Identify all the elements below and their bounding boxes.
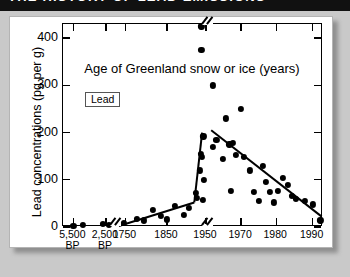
y-tick-label: 100 (37, 172, 58, 186)
x-axis-tick (125, 24, 126, 31)
x-axis-tick (73, 218, 74, 225)
y-axis-tick (63, 37, 70, 38)
x-tick-label: 1850 (154, 229, 177, 240)
title-text: THE HISTORY OF LEAD EMISSIONS (8, 0, 266, 4)
y-tick-label: 400 (37, 30, 58, 44)
x-axis-tick (240, 24, 241, 31)
axis-break-mark (202, 224, 213, 226)
axis-break-mark (202, 23, 213, 25)
x-tick-label: 1980 (264, 229, 287, 240)
y-tick-label: 200 (37, 125, 58, 139)
x-axis-tick (105, 24, 106, 31)
x-axis-tick (105, 218, 106, 225)
y-tick-label: 0 (51, 219, 58, 233)
x-tick-label: 1750 (113, 229, 136, 240)
y-axis-tick (314, 37, 321, 38)
title-banner: THE HISTORY OF LEAD EMISSIONS (0, 0, 350, 11)
x-tick-label: 5,500BP (59, 229, 85, 250)
figure-panel: Lead concentrations (pg per g) 010020030… (9, 16, 333, 248)
x-axis-tick (166, 218, 167, 225)
x-axis-tick (166, 24, 167, 31)
axis-break-mark (110, 224, 121, 226)
y-axis-tick (63, 132, 70, 133)
x-axis-title: Age of Greenland snow or ice (years) (62, 61, 322, 76)
x-tick-label: 1990 (300, 229, 323, 240)
y-axis-labels: 0100200300400 (10, 23, 58, 226)
x-tick-label: 1950 (193, 229, 216, 240)
legend-label: Lead (91, 93, 114, 105)
y-axis-tick (63, 85, 70, 86)
y-tick-label: 300 (37, 77, 58, 91)
x-axis-tick (73, 24, 74, 31)
x-tick-label: 1970 (228, 229, 251, 240)
x-axis-labels: 5,500BP2,500BP175018501950197019801990 (62, 229, 322, 255)
x-axis-tick (312, 24, 313, 31)
x-axis-tick (276, 24, 277, 31)
y-axis-tick (314, 179, 321, 180)
y-axis-tick (63, 179, 70, 180)
x-axis-tick (240, 218, 241, 225)
x-axis-tick (205, 24, 206, 31)
legend: Lead (85, 92, 120, 107)
x-axis-tick (125, 218, 126, 225)
plot-area: Lead (62, 23, 322, 226)
y-axis-tick (314, 132, 321, 133)
x-axis-tick (312, 218, 313, 225)
y-axis-tick (314, 85, 321, 86)
x-axis-tick (276, 218, 277, 225)
